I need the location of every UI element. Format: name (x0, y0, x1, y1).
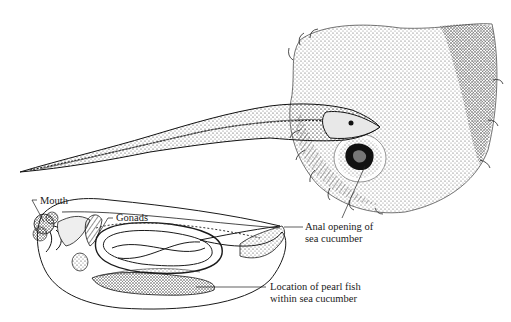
label-anal-opening-line2: sea cucumber (305, 233, 362, 245)
diagram-canvas: Mouth Gonads Anal opening of sea cucumbe… (0, 0, 511, 322)
label-location-line1: Location of pearl fish (270, 281, 361, 293)
label-gonads: Gonads (116, 212, 148, 224)
label-location-line2: within sea cucumber (270, 293, 357, 305)
label-anal-opening-line1: Anal opening of (305, 221, 373, 233)
sea-cucumber-cutaway (33, 199, 286, 310)
illustration (0, 0, 511, 322)
label-mouth: Mouth (40, 195, 68, 207)
